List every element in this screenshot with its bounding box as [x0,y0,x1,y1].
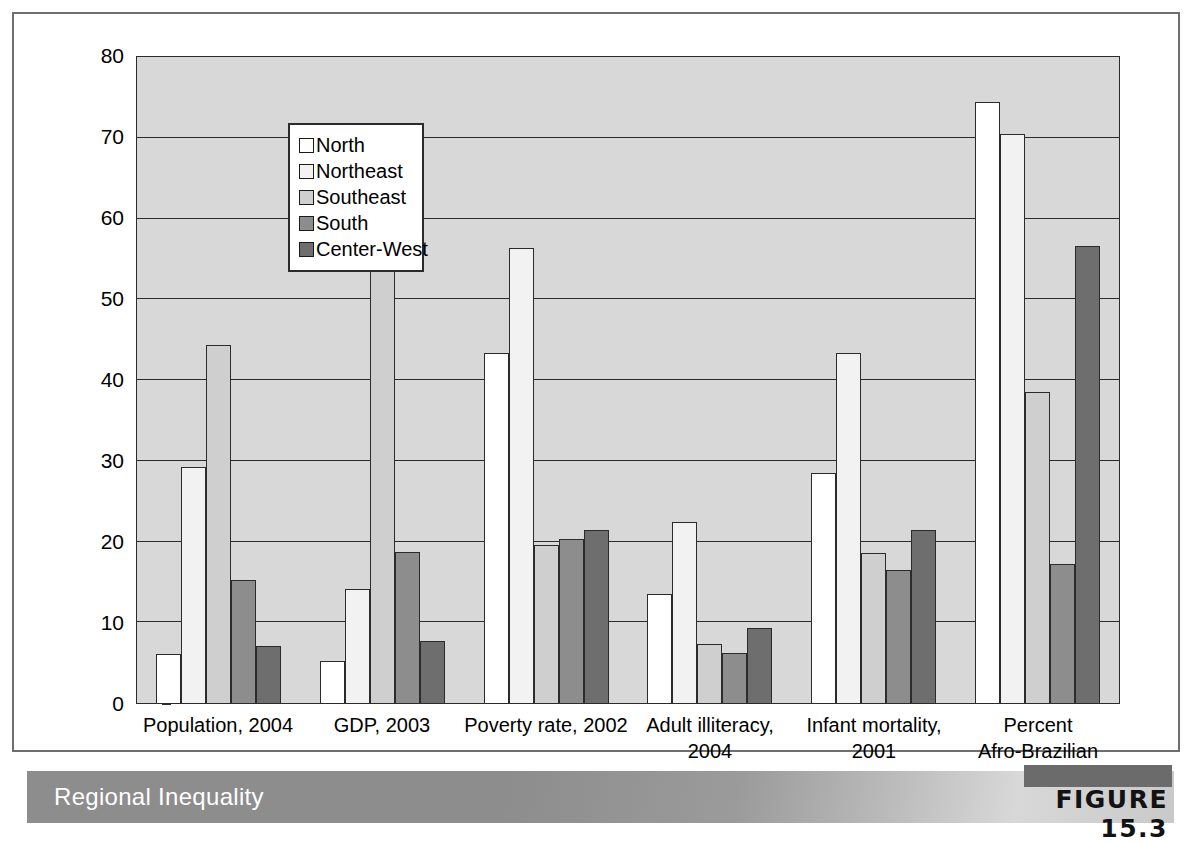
bar[interactable] [886,570,911,703]
legend-item[interactable]: Southeast [299,184,414,210]
legend-label: Center-West [316,238,428,261]
bar[interactable] [1025,392,1050,703]
bars-layer [137,57,1119,703]
y-tick-label: 40 [62,368,124,392]
figure-frame: 01020304050607080 NorthNortheastSoutheas… [12,12,1180,752]
x-category-label: PercentAfro-Brazilian [956,712,1120,764]
bar[interactable] [1000,134,1025,703]
bar[interactable] [534,545,559,703]
y-tick-label: 20 [62,530,124,554]
bar[interactable] [647,594,672,703]
bar[interactable] [975,102,1000,703]
bar[interactable] [206,345,231,703]
bar-group [464,57,628,703]
y-tick-label: 60 [62,206,124,230]
bar[interactable] [181,467,206,703]
y-tick-label: 30 [62,449,124,473]
legend-label: Northeast [316,160,403,183]
bar[interactable] [345,589,370,703]
bar[interactable] [911,530,936,703]
legend-item[interactable]: Northeast [299,158,414,184]
bar[interactable] [672,522,697,703]
plot-area: NorthNortheastSoutheastSouthCenter-West [136,56,1120,704]
bar[interactable] [811,473,836,703]
bar[interactable] [861,553,886,703]
x-category-line: Afro-Brazilian [956,738,1120,764]
x-category-label: Infant mortality,2001 [792,712,956,764]
legend-item[interactable]: North [299,132,414,158]
bar[interactable] [370,257,395,703]
bar[interactable] [697,644,722,703]
legend-swatch-icon [299,138,314,153]
legend-swatch-icon [299,164,314,179]
x-category-label: Poverty rate, 2002 [464,712,628,764]
x-category-line: Poverty rate, 2002 [464,712,628,738]
bar[interactable] [395,552,420,703]
bar[interactable] [320,661,345,703]
bar-group [628,57,792,703]
bar[interactable] [584,530,609,703]
x-category-line: 2004 [628,738,792,764]
figure-badge: FIGURE 15.3 [1006,765,1172,823]
y-tick-label: 80 [62,44,124,68]
bar-group [137,57,301,703]
legend-label: South [316,212,368,235]
y-tick-label: 0 [62,692,124,716]
bar[interactable] [509,248,534,703]
y-tick-mark [162,704,171,705]
legend-label: North [316,134,365,157]
x-category-label: GDP, 2003 [300,712,464,764]
bar[interactable] [156,654,181,703]
y-tick-label: 10 [62,611,124,635]
bar[interactable] [484,353,509,703]
legend-item[interactable]: South [299,210,414,236]
legend-item[interactable]: Center-West [299,236,414,262]
legend-label: Southeast [316,186,406,209]
bar[interactable] [747,628,772,703]
chart-legend: NorthNortheastSoutheastSouthCenter-West [288,123,424,272]
y-tick-label: 50 [62,287,124,311]
legend-swatch-icon [299,242,314,257]
legend-swatch-icon [299,190,314,205]
figure-badge-block [1024,765,1172,787]
bar-group [955,57,1119,703]
bar[interactable] [1075,246,1100,703]
x-axis: Population, 2004GDP, 2003Poverty rate, 2… [136,712,1120,764]
x-category-line: Infant mortality, [792,712,956,738]
caption-bar: Regional Inequality FIGURE 15.3 [27,771,1174,823]
y-axis: 01020304050607080 [50,56,124,704]
bar[interactable] [231,580,256,703]
bar[interactable] [420,641,445,703]
legend-swatch-icon [299,216,314,231]
bar[interactable] [1050,564,1075,703]
bar[interactable] [256,646,281,704]
bar-group [792,57,956,703]
bar[interactable] [559,539,584,703]
x-category-line: GDP, 2003 [300,712,464,738]
y-tick-label: 70 [62,125,124,149]
bar[interactable] [836,353,861,703]
x-category-line: Population, 2004 [136,712,300,738]
x-category-label: Population, 2004 [136,712,300,764]
x-category-line: Percent [956,712,1120,738]
x-category-label: Adult illiteracy,2004 [628,712,792,764]
caption-title: Regional Inequality [54,783,264,811]
x-category-line: 2001 [792,738,956,764]
x-category-line: Adult illiteracy, [628,712,792,738]
bar[interactable] [722,653,747,703]
figure-number-label: FIGURE 15.3 [1006,785,1172,843]
